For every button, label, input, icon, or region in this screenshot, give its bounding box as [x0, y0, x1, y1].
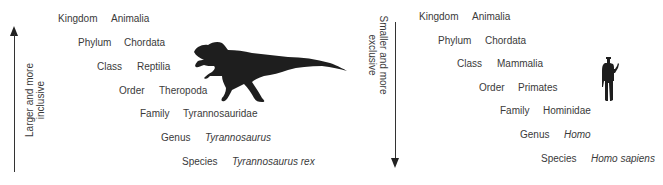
rank-label: Species: [541, 153, 577, 165]
right-axis-label-line1: Smaller and more: [378, 10, 389, 100]
taxon-name: Tyrannosauridae: [183, 108, 258, 120]
rank-label: Order: [479, 82, 505, 94]
rank-label: Phylum: [78, 37, 111, 49]
taxon-name: Chordata: [124, 37, 165, 49]
taxon-name: Reptilia: [137, 61, 170, 73]
right-axis-label-line2: exclusive: [367, 10, 378, 100]
taxon-name: Homo: [564, 129, 591, 141]
taxon-name: Chordata: [485, 35, 526, 47]
exclusive-arrow-line: [395, 22, 396, 162]
rank-label: Genus: [520, 129, 549, 141]
taxon-name: Tyrannosaurus: [205, 132, 271, 144]
rank-label: Order: [119, 85, 145, 97]
right-axis-label: Smaller and more exclusive: [367, 10, 389, 100]
taxon-name: Tyrannosaurus rex: [232, 156, 315, 168]
taxon-name: Animalia: [111, 13, 149, 25]
rank-label: Phylum: [438, 35, 471, 47]
taxon-name: Animalia: [472, 11, 510, 23]
rank-label: Kingdom: [419, 11, 458, 23]
taxon-name: Mammalia: [497, 58, 543, 70]
human-icon: [599, 57, 621, 102]
taxon-name: Homo sapiens: [591, 153, 655, 165]
left-axis-label: Larger and more inclusive: [24, 55, 46, 145]
taxon-name: Primates: [518, 82, 557, 94]
rank-label: Family: [140, 108, 169, 120]
arrow-down-icon: [391, 158, 399, 168]
left-axis-label-line2: inclusive: [35, 55, 46, 145]
inclusive-arrow-line: [14, 34, 15, 172]
rank-label: Class: [97, 61, 122, 73]
rank-label: Class: [457, 58, 482, 70]
rank-label: Family: [500, 105, 529, 117]
tyrannosaurus-icon: [192, 38, 348, 104]
taxon-name: Hominidae: [543, 105, 591, 117]
rank-label: Species: [182, 156, 218, 168]
rank-label: Genus: [161, 132, 190, 144]
left-axis-label-line1: Larger and more: [24, 55, 35, 145]
rank-label: Kingdom: [58, 13, 97, 25]
